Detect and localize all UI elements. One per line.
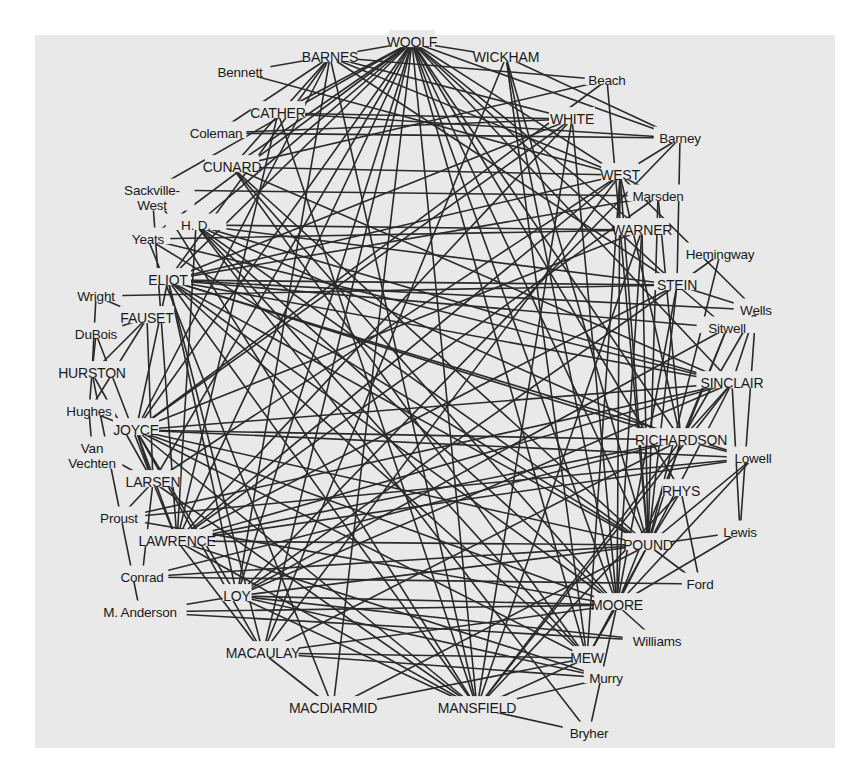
node-label: LOY [223, 588, 251, 604]
node-pound: POUND [623, 533, 673, 553]
node-label: Conrad [120, 570, 163, 585]
node-label: DuBois [75, 327, 118, 342]
edge-barney-stein [677, 138, 680, 285]
node-rhys: RHYS [662, 479, 700, 499]
node-macaulay: MACAULAY [226, 641, 301, 661]
node-conrad: Conrad [116, 566, 169, 585]
node-label: Marsden [632, 189, 683, 204]
node-white: WHITE [549, 107, 595, 127]
node-moore: MOORE [591, 593, 643, 613]
edge-lawrence-pound [177, 541, 648, 545]
node-wells: Wells [734, 299, 779, 318]
edge-hd-warner [196, 225, 642, 230]
node-mansfield: MANSFIELD [437, 696, 517, 716]
node-lawrence: LAWRENCE [138, 529, 215, 549]
node-hurston: HURSTON [58, 361, 126, 381]
node-label: Hughes [66, 404, 112, 419]
node-joyce: JOYCE [113, 418, 159, 438]
node-macdiarmid: MACDIARMID [289, 696, 377, 716]
node-murry: Murry [584, 667, 629, 686]
node-label: Sitwell [708, 321, 746, 336]
node-hughes: Hughes [63, 400, 116, 419]
writers-network-diagram: WOOLFBARNESWICKHAMBennettBeachCATHERWHIT… [0, 0, 861, 771]
node-label: MOORE [591, 597, 643, 613]
node-label: MACDIARMID [289, 700, 377, 716]
node-label: MANSFIELD [438, 700, 516, 716]
node-anderson: M. Anderson [93, 601, 186, 620]
node-label: WARNER [612, 222, 673, 238]
edge-anderson-williams [140, 612, 657, 641]
node-cather: CATHER [250, 101, 305, 121]
edge-sackville-marsden [152, 190, 658, 196]
node-hemingway: Hemingway [682, 243, 759, 262]
node-proust: Proust [93, 507, 146, 526]
node-van: VanVechten [62, 437, 123, 472]
node-label: West [137, 198, 167, 213]
node-fauset: FAUSET [120, 306, 174, 326]
node-stein: STEIN [654, 273, 700, 293]
node-sitwell: Sitwell [697, 317, 758, 336]
node-dubois: DuBois [70, 323, 123, 342]
node-label: RHYS [662, 483, 700, 499]
node-label: Lewis [723, 525, 757, 540]
node-eliot: ELIOT [145, 268, 191, 288]
node-label: FAUSET [120, 310, 174, 326]
node-label: Barney [659, 131, 701, 146]
node-label: RICHARDSON [635, 432, 727, 448]
node-label: Hemingway [686, 247, 755, 262]
node-sackville: Sackville-West [110, 179, 195, 214]
node-bryher: Bryher [563, 722, 616, 741]
node-wright: Wright [70, 285, 123, 304]
node-label: Coleman [190, 126, 243, 141]
node-ford: Ford [682, 573, 718, 592]
node-warner: WARNER [612, 218, 673, 238]
node-label: WICKHAM [473, 49, 539, 65]
node-label: M. Anderson [103, 605, 177, 620]
edge-layer [89, 42, 756, 733]
node-williams: Williams [623, 630, 692, 649]
node-larsen: LARSEN [126, 470, 181, 490]
node-label: WEST [600, 167, 640, 183]
node-label: SINCLAIR [701, 375, 764, 391]
edge-loy-moore [237, 596, 617, 605]
edge-conrad-ford [142, 577, 700, 584]
node-label: Van [81, 441, 103, 456]
node-label: Lowell [734, 451, 771, 466]
node-label: Beach [588, 73, 625, 88]
node-coleman: Coleman [186, 122, 247, 141]
node-loy: LOY [222, 584, 251, 604]
node-label: Williams [633, 634, 682, 649]
node-label: HURSTON [58, 365, 126, 381]
node-beach: Beach [585, 69, 630, 88]
node-lewis: Lewis [718, 521, 763, 540]
node-label: H. D. [181, 218, 211, 233]
node-hd: H. D. [166, 214, 227, 233]
node-yeats: Yeats [126, 228, 171, 247]
node-west: WEST [600, 163, 640, 183]
node-label: CUNARD [203, 159, 262, 175]
node-label: MACAULAY [226, 645, 301, 661]
node-label: Wells [740, 303, 772, 318]
node-wickham: WICKHAM [473, 45, 539, 65]
node-label: ELIOT [148, 272, 188, 288]
node-sinclair: SINCLAIR [696, 371, 767, 391]
node-marsden: Marsden [628, 185, 689, 204]
node-label: MEW [570, 650, 605, 666]
node-label: POUND [623, 537, 673, 553]
node-richardson: RICHARDSON [635, 428, 727, 448]
node-cunard: CUNARD [203, 155, 262, 175]
node-label: Yeats [132, 232, 165, 247]
node-bennett: Bennett [210, 61, 271, 80]
node-label: LAWRENCE [138, 533, 215, 549]
edge-lewis-wells [740, 310, 756, 532]
node-label: Ford [687, 577, 714, 592]
node-woolf: WOOLF [387, 30, 437, 50]
node-label: Bryher [570, 726, 609, 741]
edge-cunard-west [232, 167, 620, 175]
node-label: Proust [100, 511, 138, 526]
node-label: BARNES [302, 49, 358, 65]
node-label: JOYCE [113, 422, 159, 438]
node-barnes: BARNES [302, 45, 358, 65]
node-label: Vechten [68, 456, 115, 471]
node-label: WHITE [550, 111, 594, 127]
